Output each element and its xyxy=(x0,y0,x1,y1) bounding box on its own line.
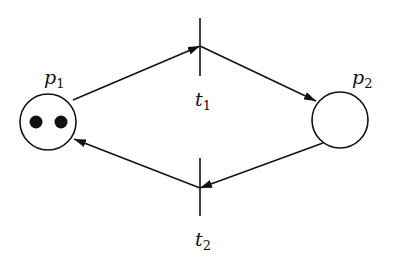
transition-t2: t2 xyxy=(195,158,211,253)
transition-t1-label: t1 xyxy=(195,88,211,113)
arc-p1-t1 xyxy=(73,46,200,100)
place-p1: p1 xyxy=(20,66,76,150)
arc-t1-p2 xyxy=(200,46,316,101)
petri-net-diagram: p1 p2 t1 t2 xyxy=(0,0,394,257)
transition-t1: t1 xyxy=(195,18,211,113)
token xyxy=(30,116,43,129)
arc-p2-t2 xyxy=(200,143,323,188)
place-p2: p2 xyxy=(312,66,372,148)
place-p1-label: p1 xyxy=(44,66,64,91)
arc-t2-p1 xyxy=(74,139,200,188)
place-p2-label: p2 xyxy=(352,66,372,91)
token xyxy=(55,116,68,129)
transition-t2-label: t2 xyxy=(195,228,211,253)
